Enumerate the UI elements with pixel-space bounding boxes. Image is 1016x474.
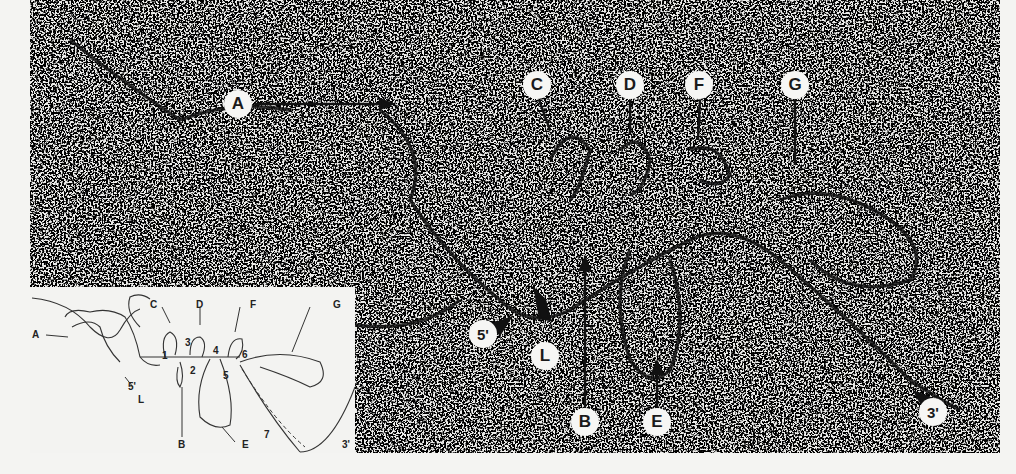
inset-label-b: B (178, 439, 185, 450)
inset-num-6: 6 (242, 349, 248, 360)
inset-label-c: C (150, 299, 157, 310)
inset-num-5: 5 (223, 370, 229, 381)
inset-num-2: 2 (190, 365, 196, 376)
inset-label-a: A (32, 329, 39, 340)
inset-label-f: F (250, 299, 256, 310)
inset-num-1: 1 (162, 350, 168, 361)
inset-label-3-prime: 3' (342, 439, 350, 450)
label-3-prime: 3' (919, 398, 947, 426)
inset-num-4: 4 (213, 345, 219, 356)
inset-label-5-prime: 5' (128, 381, 136, 392)
inset-label-e: E (242, 439, 249, 450)
label-d: D (616, 71, 644, 99)
inset-tracing-diagram: A B C D F G E L 5' 3' 1 2 3 4 5 6 7 (30, 287, 355, 453)
label-f: F (685, 71, 713, 99)
label-g: G (781, 71, 809, 99)
inset-num-7: 7 (264, 429, 270, 440)
label-e: E (643, 408, 671, 436)
label-5-prime: 5' (469, 320, 497, 348)
inset-num-3: 3 (185, 337, 191, 348)
inset-label-l: L (138, 394, 144, 405)
label-b: B (571, 408, 599, 436)
label-a: A (224, 90, 252, 118)
label-l: L (531, 342, 559, 370)
inset-label-g: G (333, 299, 341, 310)
label-c: C (523, 71, 551, 99)
inset-label-d: D (196, 299, 203, 310)
